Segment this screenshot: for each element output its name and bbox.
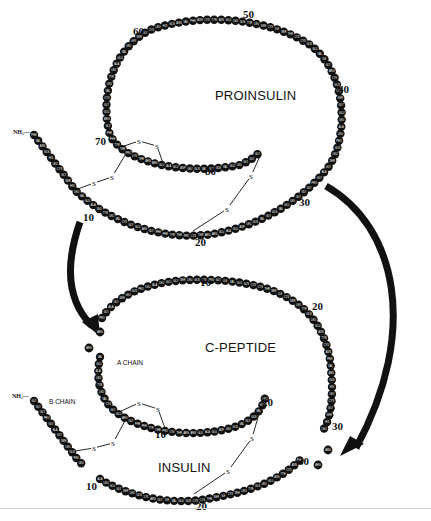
svg-text:ASP: ASP [240, 225, 245, 229]
svg-text:GLY: GLY [326, 165, 331, 169]
svg-text:ASN: ASN [219, 18, 224, 22]
svg-text:GLY: GLY [116, 487, 121, 491]
svg-text:SER: SER [290, 299, 295, 303]
svg-text:ILE: ILE [221, 494, 225, 498]
cleavage-arrow-right [326, 186, 393, 456]
svg-text:GLY: GLY [111, 408, 116, 412]
svg-text:LEU: LEU [187, 167, 192, 171]
svg-text:GLY: GLY [301, 190, 306, 194]
svg-text:GLU: GLU [233, 227, 238, 231]
svg-text:VAL: VAL [106, 89, 111, 93]
svg-text:TYR: TYR [115, 143, 120, 147]
amino-acid-bead: GLN [242, 280, 250, 288]
svg-text:HIS: HIS [163, 24, 168, 28]
svg-text:ARG: ARG [86, 346, 92, 350]
svg-text:GLY: GLY [32, 399, 37, 403]
cleavage-arrow-left [71, 222, 100, 336]
amino-acid-bead: ILE [219, 492, 227, 500]
svg-text:GLU: GLU [166, 280, 171, 284]
svg-text:SER: SER [330, 159, 335, 163]
svg-text:LEU: LEU [290, 199, 295, 203]
svg-text:VAL: VAL [102, 397, 107, 401]
svg-text:PRO: PRO [336, 139, 342, 143]
svg-text:ILE: ILE [278, 292, 282, 296]
svg-text:ARG: ARG [315, 463, 321, 467]
residue-position-number: 30 [298, 456, 309, 467]
svg-text:VAL: VAL [98, 355, 103, 359]
svg-text:GLN: GLN [307, 42, 312, 46]
svg-text:TYR: TYR [280, 472, 285, 476]
svg-text:CYS: CYS [251, 283, 257, 287]
svg-text:CYS: CYS [324, 343, 330, 347]
residue-position-number: 10 [155, 429, 166, 440]
proinsulin-to-insulin-diagram: PHEVALASNGLNHISLEUCYSGLYSERHISLEUVALGLUA… [0, 0, 431, 521]
amino-acid-bead: GLY [253, 150, 261, 158]
svg-text:ARG: ARG [122, 416, 128, 420]
bottom-rule [0, 508, 431, 509]
residue-position-number: 30 [299, 197, 310, 208]
svg-text:GLN: GLN [233, 425, 238, 429]
svg-text:GLY: GLY [326, 63, 331, 67]
svg-text:TYR: TYR [103, 211, 108, 215]
svg-text:TYR: TYR [321, 336, 326, 340]
svg-text:ASN: ASN [176, 21, 181, 25]
amino-acid-bead: ARG [211, 229, 219, 237]
svg-text:LEU: LEU [339, 118, 344, 122]
svg-text:LEU: LEU [322, 427, 327, 431]
svg-text:HIS: HIS [49, 156, 54, 160]
svg-text:LEU: LEU [126, 44, 131, 48]
sulfur-label: S [225, 206, 229, 214]
svg-text:PHE: PHE [135, 422, 141, 426]
amino-acid-bead: GLU [210, 427, 218, 435]
amino-acid-bead: GLU [172, 163, 180, 171]
residue-position-number: 40 [338, 84, 349, 95]
svg-text:ARG: ARG [183, 431, 189, 435]
svg-text:LEU: LEU [246, 222, 251, 226]
amino-acid-bead: SER [336, 94, 344, 102]
svg-text:VAL: VAL [172, 499, 177, 503]
svg-text:LEU: LEU [109, 214, 114, 218]
svg-text:ILE: ILE [165, 498, 169, 502]
svg-text:ALA: ALA [114, 62, 119, 66]
residue-position-number: 30 [332, 421, 343, 432]
svg-text:VAL: VAL [328, 364, 333, 368]
svg-text:ARG: ARG [97, 330, 103, 334]
svg-text:ARG: ARG [104, 117, 110, 121]
svg-text:LEU: LEU [237, 163, 242, 167]
residue-position-number: 20 [196, 501, 207, 512]
svg-text:GLY: GLY [48, 422, 53, 426]
proinsulin-title: PROINSULIN [215, 89, 296, 102]
svg-text:CYS: CYS [329, 399, 335, 403]
svg-text:GLY: GLY [243, 160, 248, 164]
svg-text:ARG: ARG [329, 69, 335, 73]
amino-acid-bead: GLY [147, 227, 155, 235]
svg-text:GLN: GLN [194, 278, 199, 282]
amino-acid-bead: VAL [327, 362, 335, 370]
svg-text:ALA: ALA [322, 170, 327, 174]
svg-text:LEU: LEU [333, 152, 338, 156]
svg-text:TYR: TYR [247, 21, 252, 25]
svg-text:HIS: HIS [325, 420, 330, 424]
sulfur-label: S [92, 180, 96, 188]
svg-text:GLN: GLN [169, 22, 174, 26]
svg-text:LEU: LEU [126, 293, 131, 297]
svg-text:PHE: PHE [110, 137, 116, 141]
amino-acid-bead: SER [212, 493, 220, 501]
svg-text:GLU: GLU [173, 165, 178, 169]
svg-text:THR: THR [177, 233, 182, 237]
svg-text:SER: SER [123, 489, 128, 493]
svg-text:LEU: LEU [104, 481, 109, 485]
svg-text:SER: SER [338, 96, 343, 100]
svg-text:PHE: PHE [327, 357, 333, 361]
svg-text:GLN: GLN [329, 378, 334, 382]
svg-text:VAL: VAL [278, 207, 283, 211]
amino-acid-bead: GLU [164, 278, 172, 286]
svg-text:GLY: GLY [129, 419, 134, 423]
svg-text:GLN: GLN [216, 166, 221, 170]
sulfur-label: S [156, 406, 160, 414]
svg-text:GLU: GLU [339, 111, 344, 115]
amino-acid-bead: PHE [189, 17, 197, 25]
svg-text:TYR: TYR [212, 18, 217, 22]
svg-text:HIS: HIS [330, 385, 335, 389]
free-arginine-bead: ARG [85, 344, 94, 353]
